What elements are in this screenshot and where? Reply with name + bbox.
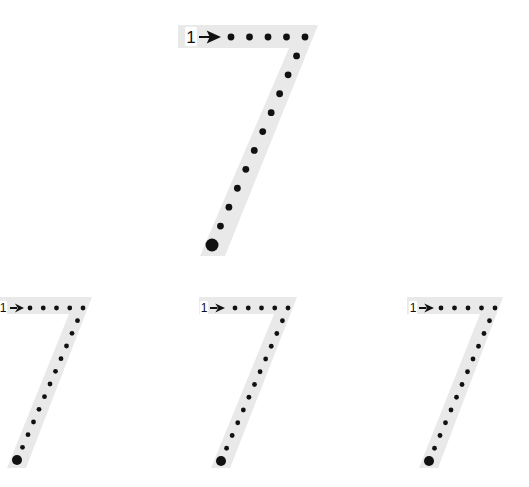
- trace-dot: [37, 407, 42, 412]
- trace-dot: [234, 185, 241, 192]
- trace-dot: [471, 357, 476, 362]
- trace-dot: [283, 34, 290, 41]
- trace-dot: [493, 306, 498, 311]
- stroke-number-label: 1: [410, 301, 417, 315]
- trace-dot: [286, 306, 291, 311]
- trace-dot: [246, 34, 253, 41]
- trace-dot: [466, 306, 471, 311]
- trace-dot: [226, 204, 233, 211]
- end-point-dot: [216, 456, 226, 466]
- trace-dot: [75, 318, 80, 323]
- stroke-number-label: 1: [186, 28, 195, 47]
- trace-dot: [285, 71, 292, 78]
- arrow-shaft: [210, 307, 218, 309]
- trace-dot: [53, 369, 58, 374]
- trace-dot: [449, 408, 454, 413]
- end-point-dot: [12, 455, 22, 465]
- trace-dot: [487, 318, 492, 323]
- trace-path-band: [178, 25, 318, 256]
- small-seven-1-figure: 1: [0, 297, 92, 468]
- large-seven-figure: 1: [178, 25, 318, 256]
- trace-dot: [81, 306, 86, 311]
- tracing-worksheet: 1111: [0, 0, 529, 487]
- stroke-number-label: 1: [0, 301, 7, 315]
- trace-dot: [48, 382, 53, 387]
- stroke-number-label: 1: [201, 301, 208, 315]
- trace-dot: [280, 318, 285, 323]
- trace-dot: [241, 408, 246, 413]
- trace-dot: [293, 53, 300, 60]
- trace-dot: [41, 306, 46, 311]
- trace-dot: [233, 306, 238, 311]
- trace-dot: [70, 331, 75, 336]
- small-seven-3-figure: 1: [407, 297, 503, 468]
- trace-dot: [217, 223, 224, 230]
- trace-dot: [26, 432, 31, 437]
- trace-dot: [224, 446, 229, 451]
- trace-dot: [230, 433, 235, 438]
- trace-dot: [252, 382, 257, 387]
- trace-dot: [276, 90, 283, 97]
- arrow-shaft: [419, 307, 427, 309]
- trace-dot: [452, 306, 457, 311]
- arrow-shaft: [10, 307, 17, 309]
- end-point-dot: [206, 239, 219, 252]
- trace-dot: [482, 331, 487, 336]
- trace-dot: [479, 306, 484, 311]
- trace-dot: [251, 147, 258, 154]
- trace-dot: [259, 306, 264, 311]
- trace-dot: [443, 420, 448, 425]
- trace-dot: [268, 109, 275, 116]
- trace-dot: [263, 357, 268, 362]
- trace-dot: [67, 306, 72, 311]
- trace-dot: [272, 306, 277, 311]
- end-point-dot: [424, 456, 434, 466]
- trace-dot: [20, 445, 25, 450]
- trace-dot: [454, 395, 459, 400]
- trace-dot: [246, 306, 251, 311]
- trace-dot: [42, 394, 47, 399]
- trace-dot: [54, 306, 59, 311]
- trace-dot: [439, 306, 444, 311]
- trace-dot: [247, 395, 252, 400]
- trace-dot: [274, 331, 279, 336]
- trace-dot: [258, 369, 263, 374]
- trace-dot: [242, 166, 249, 173]
- trace-dot: [460, 382, 465, 387]
- trace-dot: [465, 369, 470, 374]
- small-seven-2-figure: 1: [199, 297, 297, 468]
- arrow-shaft: [199, 36, 210, 38]
- trace-dot: [265, 34, 272, 41]
- trace-dot: [64, 344, 69, 349]
- trace-dot: [302, 34, 309, 41]
- trace-dot: [235, 420, 240, 425]
- trace-dot: [28, 306, 33, 311]
- trace-dot: [59, 356, 64, 361]
- trace-dot: [228, 34, 235, 41]
- trace-dot: [438, 433, 443, 438]
- trace-dot: [476, 344, 481, 349]
- trace-dot: [31, 420, 36, 425]
- trace-dot: [259, 128, 266, 135]
- trace-dot: [432, 446, 437, 451]
- trace-dot: [269, 344, 274, 349]
